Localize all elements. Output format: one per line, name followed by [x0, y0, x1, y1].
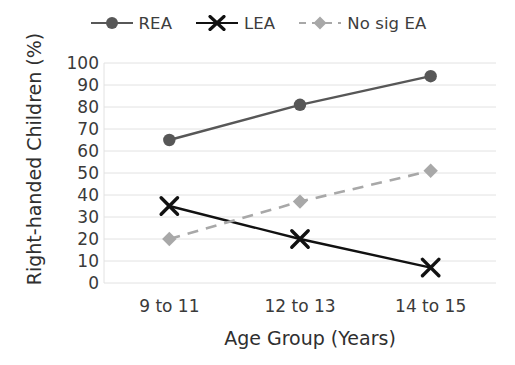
data-point[interactable] [162, 232, 176, 246]
data-point[interactable] [424, 70, 436, 82]
data-point[interactable] [163, 134, 175, 146]
data-point[interactable] [293, 194, 307, 208]
x-axis-tick-label: 9 to 11 [139, 296, 199, 316]
x-axis-ticks: 9 to 1112 to 1314 to 15 [0, 296, 515, 322]
gridlines [104, 63, 496, 283]
series-no-sig-ea [162, 164, 438, 247]
x-axis-tick-label: 14 to 15 [395, 296, 466, 316]
data-point[interactable] [423, 164, 437, 178]
chart-figure: REA LEA No sig EA Right-handed C [0, 0, 515, 365]
data-point[interactable] [294, 99, 306, 111]
series-rea [163, 70, 437, 146]
x-axis-title: Age Group (Years) [115, 327, 505, 349]
x-axis-tick-label: 12 to 13 [264, 296, 335, 316]
series-lea [161, 198, 439, 276]
